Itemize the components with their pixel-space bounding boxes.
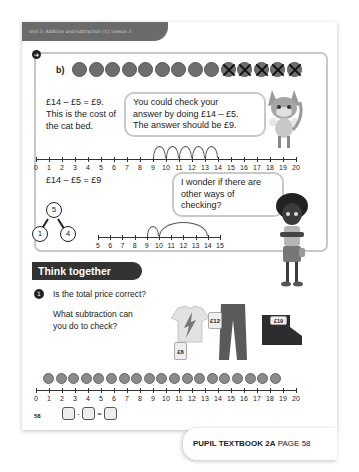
part-circle: 4 bbox=[60, 226, 76, 242]
coin-row bbox=[72, 62, 302, 77]
tick-label: 12 bbox=[188, 395, 196, 402]
tick-label: 0 bbox=[34, 395, 38, 402]
answer-box-1[interactable] bbox=[62, 407, 75, 420]
tick-label: 5 bbox=[99, 164, 103, 171]
equation: £14 – £5 = £9 bbox=[46, 174, 101, 186]
tick-label: 11 bbox=[175, 164, 182, 171]
girl-character-icon bbox=[272, 192, 312, 292]
bubble-line: answer by doing £14 – £5. bbox=[133, 109, 257, 121]
statement-line: £14 – £5 = £9. bbox=[46, 96, 116, 108]
tick-label: 19 bbox=[279, 164, 287, 171]
coin-icon bbox=[81, 373, 92, 384]
tick bbox=[231, 388, 232, 393]
tick-label: 2 bbox=[60, 395, 64, 402]
tick bbox=[218, 157, 219, 162]
tick bbox=[101, 388, 102, 393]
tick bbox=[218, 388, 219, 393]
tick-label: 3 bbox=[73, 395, 77, 402]
tick bbox=[101, 157, 102, 162]
unit-header: Unit 2: Addition and subtraction (1), Le… bbox=[22, 22, 168, 41]
tick bbox=[122, 235, 123, 240]
tick bbox=[62, 388, 63, 393]
tick bbox=[283, 157, 284, 162]
answer-box-2[interactable] bbox=[82, 407, 95, 420]
tick-label: 20 bbox=[292, 395, 300, 402]
coin-icon bbox=[169, 373, 180, 384]
textbook-page: Unit 2: Addition and subtraction (1), Le… bbox=[22, 22, 337, 430]
coin-icon bbox=[119, 373, 130, 384]
coin-icon bbox=[68, 373, 79, 384]
coin-icon bbox=[105, 62, 120, 77]
tick-label: 14 bbox=[214, 164, 222, 171]
footer-book-title: PUPIL TEXTBOOK 2A bbox=[193, 439, 276, 448]
think-together-heading: Think together bbox=[32, 262, 142, 280]
tick-label: 13 bbox=[192, 242, 200, 249]
crossed-coin-icon bbox=[270, 62, 285, 77]
whole-circle: 5 bbox=[46, 202, 62, 218]
crossed-coin-icon bbox=[237, 62, 252, 77]
tick bbox=[296, 388, 297, 393]
bubble-line: I wonder if there are bbox=[181, 177, 275, 189]
question-text: Is the total price correct? bbox=[53, 288, 146, 300]
tick-label: 5 bbox=[96, 242, 100, 249]
tick-label: 9 bbox=[151, 164, 155, 171]
tick bbox=[257, 388, 258, 393]
question-line: What subtraction can bbox=[53, 308, 133, 320]
girl-speech-bubble: I wonder if there are other ways of chec… bbox=[172, 172, 284, 217]
tick-label: 5 bbox=[99, 395, 103, 402]
footer-page-tag: PUPIL TEXTBOOK 2A PAGE 58 bbox=[183, 428, 337, 460]
tick bbox=[244, 388, 245, 393]
price-tag-tshirt: £6 bbox=[174, 342, 187, 360]
statement: £14 – £5 = £9. This is the cost of the c… bbox=[46, 96, 116, 132]
coin-icon bbox=[188, 62, 203, 77]
tick-label: 13 bbox=[201, 164, 209, 171]
tick bbox=[88, 157, 89, 162]
tick bbox=[62, 157, 63, 162]
tick bbox=[220, 235, 221, 240]
coin-icon bbox=[182, 373, 193, 384]
coin-icon bbox=[270, 373, 281, 384]
tick bbox=[88, 388, 89, 393]
tick-label: 14 bbox=[204, 242, 212, 249]
tick bbox=[135, 235, 136, 240]
tick bbox=[244, 157, 245, 162]
part-b-label: b) bbox=[56, 65, 65, 75]
tick bbox=[140, 388, 141, 393]
tick bbox=[49, 157, 50, 162]
footer-page-label: PAGE 58 bbox=[278, 439, 311, 448]
tick-label: 15 bbox=[227, 164, 235, 171]
tick-label: 11 bbox=[175, 395, 182, 402]
coin-icon bbox=[204, 62, 219, 77]
tick bbox=[270, 157, 271, 162]
coin-icon bbox=[138, 62, 153, 77]
coin-icon bbox=[155, 62, 170, 77]
crossed-coin-icon bbox=[287, 62, 302, 77]
tick-label: 12 bbox=[179, 242, 187, 249]
answer-box-3[interactable] bbox=[104, 407, 117, 420]
tick-label: 14 bbox=[214, 395, 222, 402]
tick bbox=[49, 388, 50, 393]
tick bbox=[283, 388, 284, 393]
tick-label: 10 bbox=[155, 242, 163, 249]
tick-label: 16 bbox=[240, 164, 248, 171]
coin-icon bbox=[194, 373, 205, 384]
coin-icon bbox=[219, 373, 230, 384]
coin-icon bbox=[106, 373, 117, 384]
tick bbox=[270, 388, 271, 393]
tick-label: 4 bbox=[86, 395, 90, 402]
page-number: 58 bbox=[34, 413, 41, 419]
bubble-line: You could check your bbox=[133, 97, 257, 109]
tick-label: 18 bbox=[266, 164, 274, 171]
tick bbox=[36, 157, 37, 162]
trousers-icon bbox=[218, 302, 248, 362]
tick bbox=[208, 235, 209, 240]
tick bbox=[192, 388, 193, 393]
total-price-label: £19 bbox=[270, 316, 287, 325]
price-tag-trousers: £12 bbox=[208, 312, 222, 329]
tick-label: 16 bbox=[240, 395, 248, 402]
coin-icon bbox=[232, 373, 243, 384]
tick bbox=[140, 157, 141, 162]
part-circle: 1 bbox=[32, 226, 48, 242]
tick-label: 1 bbox=[47, 395, 51, 402]
tick bbox=[98, 235, 99, 240]
